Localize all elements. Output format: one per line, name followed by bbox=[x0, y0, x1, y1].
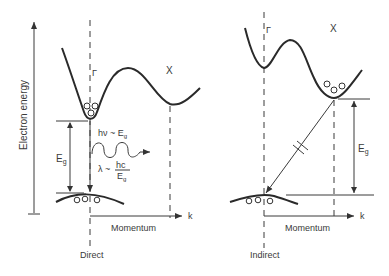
k-label: k bbox=[360, 211, 365, 221]
k-label: k bbox=[188, 211, 193, 221]
momentum-label: Momentum bbox=[111, 223, 156, 233]
electron bbox=[88, 110, 94, 116]
gamma-label: Γ bbox=[266, 25, 271, 35]
gap-label: Eg bbox=[56, 153, 67, 166]
x-label: X bbox=[330, 23, 337, 34]
direct-panel: Γ X Eg hν ~ Eg λ ~ hc Eg k Momentum Di bbox=[56, 20, 200, 260]
gap-label: Eg bbox=[358, 143, 369, 156]
hole bbox=[94, 197, 100, 203]
conduction-band bbox=[62, 48, 200, 119]
svg-text:Eg: Eg bbox=[117, 171, 126, 182]
gamma-label: Γ bbox=[92, 68, 97, 78]
panel-caption: Indirect bbox=[250, 250, 280, 260]
momentum-label: Momentum bbox=[285, 223, 330, 233]
band-diagram: Electron energy Γ X Eg hν ~ Eg λ ~ h bbox=[0, 0, 389, 276]
electron bbox=[92, 103, 98, 109]
hole bbox=[246, 198, 252, 204]
indirect-panel: Γ X Eg k Momentum Indirect bbox=[230, 12, 374, 260]
y-axis-label: Electron energy bbox=[18, 80, 29, 150]
x-label: X bbox=[166, 65, 173, 76]
hole bbox=[82, 196, 88, 202]
photon-energy-label: hν ~ Eg bbox=[98, 128, 127, 139]
photon-wave bbox=[92, 143, 150, 158]
transition-arrow bbox=[266, 100, 334, 193]
electron bbox=[339, 83, 345, 89]
wavelength-label: λ ~ bbox=[98, 164, 110, 174]
hole bbox=[74, 197, 80, 203]
hole bbox=[255, 197, 261, 203]
energy-axis: Electron energy bbox=[18, 22, 40, 214]
panel-caption: Direct bbox=[80, 250, 104, 260]
phonon-mark bbox=[293, 145, 304, 154]
svg-text:hc: hc bbox=[116, 160, 126, 170]
electron bbox=[331, 87, 337, 93]
electron bbox=[84, 103, 90, 109]
electron bbox=[324, 81, 330, 87]
hole bbox=[267, 198, 273, 204]
